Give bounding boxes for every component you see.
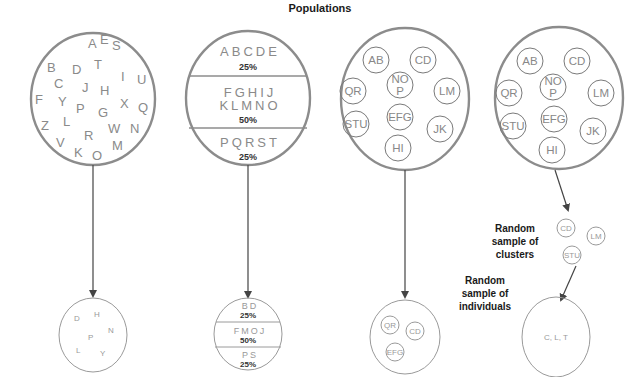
stratum-percent: 50% (240, 336, 256, 345)
cluster-label: QR (500, 87, 517, 99)
stratum-letters: PQRST (220, 135, 280, 150)
simple-random-population: A E S B D T I U C J H F Y P X Q G Z L W … (31, 32, 155, 165)
stratum-letters: KLMNO (219, 98, 280, 113)
stratum-letters: ABCDE (220, 44, 280, 59)
multistage-sample: C, L, T (522, 297, 590, 377)
label-line: sample of (492, 236, 539, 247)
cluster-label: AB (368, 54, 384, 66)
stratified-sample: BD 25% FMOJ 50% PS 25% (214, 298, 282, 370)
letter: R (84, 128, 93, 143)
cluster-label: JK (586, 125, 600, 137)
letter: O (92, 148, 102, 163)
letter: G (98, 105, 108, 120)
label-line: sample of (462, 288, 509, 299)
letter: Q (138, 100, 148, 115)
letter: L (63, 114, 70, 129)
cluster-label: CD (560, 224, 572, 233)
cluster-label: STU (502, 120, 525, 132)
individual-sample-label: Random sample of individuals (459, 275, 512, 312)
cluster-label: EFG (388, 111, 412, 123)
letter: A (88, 36, 97, 51)
letter: T (94, 57, 102, 72)
stratum-percent: 25% (240, 360, 256, 369)
simple-random-sample: D H N P L Y (59, 298, 127, 372)
cluster-label: HI (392, 142, 404, 154)
sampling-diagram: Populations A E S B D T I U C J H F Y P … (0, 0, 637, 377)
cluster-label: LM (439, 85, 455, 97)
population-circle-cluster (341, 28, 469, 170)
letter: Y (58, 94, 67, 109)
letter: C (54, 76, 63, 91)
letter: W (108, 121, 121, 136)
cluster-label: EFG (542, 113, 566, 125)
stratum-letters: BD (242, 301, 259, 311)
cluster-label: STU (345, 118, 368, 130)
cluster-label: CD (415, 54, 432, 66)
stratum-letters: FMOJ (234, 326, 267, 336)
sampled-clusters: CD LM STU (557, 219, 605, 264)
letter: H (100, 83, 109, 98)
cluster-label: HI (546, 144, 558, 156)
cluster-label: NO (544, 75, 561, 87)
cluster-label: P (549, 87, 557, 99)
letter: H (94, 310, 100, 319)
stratified-population: ABCDE 25% FGHIJ KLMNO 50% PQRST 25% (186, 31, 310, 165)
letter: D (72, 62, 81, 77)
stratum-percent: 25% (239, 62, 257, 72)
arrow-to-individuals (561, 266, 576, 300)
cluster-label: JK (433, 123, 447, 135)
multistage-population: AB CD NO P QR LM STU EFG JK HI (495, 27, 623, 169)
cluster-label: P (396, 85, 404, 97)
label-line: individuals (459, 301, 512, 312)
letter: U (137, 72, 146, 87)
letter: F (35, 92, 43, 107)
cluster-label: CD (569, 55, 586, 67)
letter: E (100, 32, 109, 47)
cluster-sample: QR CD EFG (370, 300, 440, 374)
cluster-label: QR (384, 321, 396, 330)
letter: P (76, 101, 85, 116)
stratum-percent: 25% (239, 152, 257, 162)
stratum-percent: 50% (239, 115, 257, 125)
letter: D (74, 314, 80, 323)
letter: Y (100, 349, 106, 358)
letter: K (74, 145, 83, 160)
population-circle-simple (31, 33, 155, 165)
letter: Z (41, 118, 49, 133)
letter: P (88, 333, 93, 342)
letter: N (130, 121, 139, 136)
letter: X (120, 96, 129, 111)
sampled-individuals: C, L, T (544, 333, 568, 342)
letter: I (121, 69, 125, 84)
cluster-label: STU (564, 251, 580, 260)
cluster-label: LM (590, 232, 601, 241)
sample-circle-cluster (370, 300, 440, 374)
stratum-letters: PS (242, 350, 258, 360)
cluster-label: AB (522, 55, 538, 67)
cluster-label: CD (409, 327, 421, 336)
cluster-label: NO (391, 73, 408, 85)
letter: J (82, 80, 89, 95)
letter: B (47, 60, 56, 75)
letter: V (56, 135, 65, 150)
cluster-label: LM (593, 87, 609, 99)
letter: N (108, 326, 114, 335)
label-line: Random (495, 223, 535, 234)
letter: M (112, 138, 123, 153)
letter: S (112, 38, 121, 53)
diagram-title: Populations (289, 2, 352, 14)
label-line: Random (465, 275, 505, 286)
cluster-sample-label: Random sample of clusters (492, 223, 539, 260)
cluster-label: QR (344, 85, 361, 97)
arrow-to-clusters (555, 170, 568, 210)
letter: L (76, 346, 81, 355)
cluster-label: EFG (387, 348, 403, 357)
label-line: clusters (496, 249, 535, 260)
cluster-population: AB CD NO P QR LM STU EFG JK HI (340, 28, 469, 170)
stratum-percent: 25% (240, 311, 256, 320)
